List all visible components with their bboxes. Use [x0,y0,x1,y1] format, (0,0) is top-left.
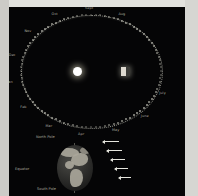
orbit-tick [95,126,97,128]
orbit-tick [59,20,61,22]
orbit-tick [20,70,22,72]
orbit-month-label: Dec [9,53,16,57]
orbit-tick [51,117,53,119]
orbit-tick [129,117,131,119]
orbit-month-label: Mar [46,124,53,128]
orbit-tick [151,98,153,100]
orbit-tick [72,16,74,18]
landmass [65,161,74,169]
earth-globe-detail [53,143,97,193]
orbit-tick [113,123,115,125]
orbit-month-label: Feb [20,105,26,109]
sunlight-ray-arrow [119,177,131,178]
earth-night-side [126,67,130,76]
south-pole-label: South Pole [37,187,56,191]
sunlight-ray-arrow [115,168,128,169]
orbit-month-label: June [141,114,149,118]
orbit-tick [24,88,26,90]
orbit-tick [24,52,26,54]
orbit-month-label: July [159,91,166,95]
orbit-tick [151,42,153,44]
orbit-tick [159,81,161,83]
orbit-tick [44,112,46,114]
orbit-tick [104,125,106,127]
orbit-tick [99,126,101,128]
frame-edge-top [0,0,198,7]
orbit-tick [143,107,145,109]
sunlight-ray-arrow [107,150,122,151]
orbit-tick [81,126,83,128]
earth-sphere [57,145,93,191]
orbit-tick [108,16,110,18]
earth-on-orbit-marker [121,67,130,76]
orbit-tick [90,126,92,128]
orbit-month-label: Oct [52,12,58,16]
landmass [80,147,91,154]
sunlight-ray-arrow [111,159,125,160]
orbit-tick [160,74,162,76]
north-pole-label: North Pole [36,135,55,139]
sun-marker [73,67,82,76]
orbit-tick [32,39,34,41]
orbit-tick [158,56,160,58]
orbit-month-label: Apr [78,132,84,136]
frame-edge-left [0,0,9,196]
orbit-tick [146,104,148,106]
orbit-tick [63,122,65,124]
orbit-ellipse [21,15,163,129]
orbit-tick [125,22,127,24]
image-frame: SeptOctNovDecJanFebMarAprMayJuneJulyAug … [0,0,198,196]
orbit-tick [104,15,106,17]
frame-edge-right [185,0,198,196]
orbit-month-label: May [112,128,119,132]
orbit-tick [133,26,135,28]
orbit-month-label: Aug [118,12,125,16]
orbit-tick [32,101,34,103]
orbit-tick [155,49,157,51]
orbit-tick [153,95,155,97]
orbit-tick [143,33,145,35]
orbit-month-label: Nov [24,29,31,33]
sunlight-ray-arrow [103,141,119,142]
orbit-tick [160,70,162,72]
orbit-tick [55,22,57,24]
orbit-tick [44,28,46,30]
orbit-tick [20,74,22,76]
landmass [70,169,83,187]
orbit-tick [21,63,23,65]
orbit-tick [72,124,74,126]
orbit-tick [41,110,43,112]
orbit-tick [159,59,161,61]
orbit-tick [146,36,148,38]
diagram-canvas: SeptOctNovDecJanFebMarAprMayJuneJulyAug … [9,7,185,196]
orbit-month-label: Jan [9,80,13,84]
orbit-month-label: Sept [85,7,93,10]
orbit-tick [117,122,119,124]
equator-label: Equator [15,167,29,171]
orbit-tick [121,20,123,22]
orbit-tick [113,17,115,19]
orbit-tick [95,14,97,16]
orbit-tick [90,14,92,16]
